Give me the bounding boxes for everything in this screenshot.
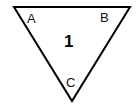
vertex-label-b: B [100,11,109,24]
region-label-1: 1 [64,33,73,50]
vertex-label-a: A [27,12,36,25]
geometry-figure: A B C 1 [0,0,139,107]
vertex-label-c: C [66,76,75,89]
triangle-shape [0,0,139,107]
